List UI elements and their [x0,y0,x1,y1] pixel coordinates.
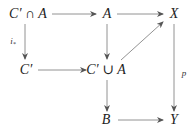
node-x: X [170,7,179,21]
node-y: Y [170,113,178,127]
node-b: B [102,113,111,127]
node-c-prime: C′ [20,63,32,77]
label-p: p [182,69,187,78]
label-i-star-subscript: * [13,41,16,47]
label-i-star: i* [10,37,16,48]
arrow-cup-to-x [121,22,163,60]
node-a: A [103,7,112,21]
node-c-prime-union-a: C′ ∪ A [86,63,125,77]
node-c-prime-intersect-a: C′ ∩ A [9,7,47,21]
